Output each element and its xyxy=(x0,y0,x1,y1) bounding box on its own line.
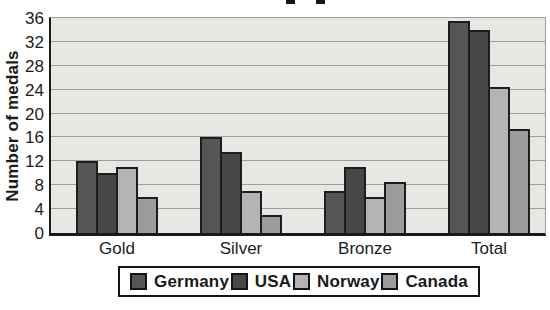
bar-usa-bronze xyxy=(344,167,366,233)
legend-item-norway: Norway xyxy=(293,272,380,292)
legend-label: Norway xyxy=(317,272,380,292)
bar-group-total xyxy=(448,18,530,233)
y-tick-label: 16 xyxy=(25,129,44,146)
plot-area xyxy=(49,17,546,236)
y-tick-label: 12 xyxy=(25,153,44,170)
bar-germany-total xyxy=(448,21,470,233)
cropped-title-descender-fragment xyxy=(316,0,325,4)
cropped-title-descender-fragment xyxy=(286,0,295,4)
bar-usa-gold xyxy=(96,173,118,233)
legend-item-canada: Canada xyxy=(381,272,468,292)
bar-norway-total xyxy=(488,87,510,233)
legend-item-germany: Germany xyxy=(130,272,229,292)
legend-swatch-canada xyxy=(381,273,398,290)
legend-item-usa: USA xyxy=(231,272,292,292)
y-tick-label: 20 xyxy=(25,105,44,122)
bar-norway-gold xyxy=(116,167,138,233)
x-category-label: Gold xyxy=(55,239,179,259)
bar-norway-silver xyxy=(240,191,262,233)
bar-canada-total xyxy=(508,129,530,234)
bar-norway-bronze xyxy=(364,197,386,233)
y-tick-label: 8 xyxy=(35,177,44,194)
y-tick-label: 32 xyxy=(25,33,44,50)
y-tick-label: 36 xyxy=(25,10,44,27)
bar-germany-bronze xyxy=(324,191,346,233)
y-tick-label: 28 xyxy=(25,57,44,74)
bar-usa-silver xyxy=(220,152,242,233)
bar-germany-gold xyxy=(76,161,98,233)
y-tick-label: 24 xyxy=(25,81,44,98)
medals-bar-chart: Number of medals 04812162024283236 GoldS… xyxy=(0,0,550,310)
legend-swatch-usa xyxy=(231,273,248,290)
x-category-label: Silver xyxy=(179,239,303,259)
legend-label: USA xyxy=(255,272,292,292)
bar-canada-silver xyxy=(260,215,282,233)
bar-group-silver xyxy=(200,18,282,233)
bar-group-gold xyxy=(76,18,158,233)
legend-swatch-norway xyxy=(293,273,310,290)
y-axis-ticks: 04812162024283236 xyxy=(0,18,44,233)
x-axis-labels: GoldSilverBronzeTotal xyxy=(0,239,550,259)
x-category-label: Total xyxy=(427,239,550,259)
bar-usa-total xyxy=(468,30,490,233)
legend-label: Germany xyxy=(154,272,229,292)
x-category-label: Bronze xyxy=(303,239,427,259)
legend: GermanyUSANorwayCanada xyxy=(118,266,480,297)
y-tick-label: 4 xyxy=(35,201,44,218)
legend-swatch-germany xyxy=(130,273,147,290)
bar-group-bronze xyxy=(324,18,406,233)
bar-germany-silver xyxy=(200,137,222,233)
bar-canada-gold xyxy=(136,197,158,233)
bar-canada-bronze xyxy=(384,182,406,233)
legend-label: Canada xyxy=(405,272,468,292)
